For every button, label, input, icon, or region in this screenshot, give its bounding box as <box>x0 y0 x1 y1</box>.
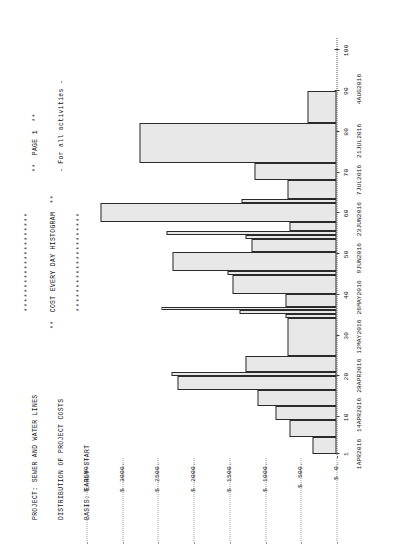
value-tick: $1500. <box>225 462 232 492</box>
histogram-bar <box>161 307 336 310</box>
time-tick-label: 60 <box>342 209 349 217</box>
project-line: PROJECT: SEWER AND WATER LINES <box>31 394 40 520</box>
currency-symbol: $ <box>118 488 125 492</box>
value-tick-label: 3500. <box>82 462 89 482</box>
histogram-bar <box>285 314 336 318</box>
histogram-bar <box>245 356 336 372</box>
value-tick-label: 1000. <box>261 462 268 482</box>
histogram-bar <box>241 199 336 203</box>
value-tick-label: 1500. <box>225 462 232 482</box>
report-page: PROJECT: SEWER AND WATER LINES DISTRIBUT… <box>0 0 397 544</box>
time-date-label: 4AUG2016 <box>355 74 362 104</box>
time-date-label: 14APR2016 <box>355 398 362 432</box>
value-tick: $2000. <box>190 462 197 492</box>
time-tick-label: 10 <box>342 413 349 421</box>
filter-note: - For all activities - <box>57 80 66 172</box>
title-star-rule-top: ********************* <box>23 195 32 329</box>
time-axis: 11020304050607080901001APR201614APR20162… <box>336 38 390 458</box>
time-tick-mark <box>334 49 339 50</box>
time-date-label: 26MAY2016 <box>355 280 362 314</box>
histogram-bar <box>232 275 336 294</box>
histogram-bar <box>100 203 336 222</box>
histogram-bar <box>289 420 336 438</box>
report-title: ** COST EVERY DAY HISTOGRAM ** <box>49 195 58 329</box>
value-tick: $500. <box>297 462 304 488</box>
bars-layer <box>68 38 336 458</box>
histogram-bar <box>251 239 336 252</box>
page-number: ** PAGE 1 ** <box>31 80 40 172</box>
histogram-bar <box>257 390 336 406</box>
time-date-label: 21JUL2016 <box>355 124 362 158</box>
time-date-label: 12MAY2016 <box>355 319 362 353</box>
time-tick-label: 90 <box>342 87 349 95</box>
histogram-bar <box>172 253 336 272</box>
value-tick-label: 2000. <box>190 462 197 482</box>
currency-symbol: $ <box>297 484 304 488</box>
time-date-label: 23JUN2016 <box>355 202 362 236</box>
value-tick-label: 500. <box>297 462 304 478</box>
currency-symbol: $ <box>190 488 197 492</box>
value-tick: $2500. <box>154 462 161 492</box>
distribution-line: DISTRIBUTION OF PROJECT COSTS <box>57 394 66 520</box>
value-tick: $0. <box>333 462 340 480</box>
histogram-bar <box>287 318 336 356</box>
value-tick-label: 2500. <box>154 462 161 482</box>
value-tick: $3500. <box>82 462 89 492</box>
time-date-label: 28APR2016 <box>355 359 362 393</box>
histogram-bar <box>177 376 336 390</box>
value-tick: $3000. <box>118 462 125 492</box>
histogram-bar <box>287 180 336 199</box>
histogram-bar <box>166 231 336 235</box>
value-tick: $1000. <box>261 462 268 492</box>
histogram-bar <box>171 372 336 376</box>
currency-symbol: $ <box>261 488 268 492</box>
currency-symbol: $ <box>154 488 161 492</box>
time-tick-label: 40 <box>342 291 349 299</box>
currency-symbol: $ <box>225 488 232 492</box>
currency-symbol: $ <box>82 488 89 492</box>
histogram-bar <box>285 294 336 307</box>
currency-symbol: $ <box>333 476 340 480</box>
time-tick-label: 80 <box>342 128 349 136</box>
histogram-bar <box>312 437 336 454</box>
time-date-label: 9JUN2016 <box>355 243 362 273</box>
time-tick-label: 20 <box>342 372 349 380</box>
time-tick-label: 50 <box>342 250 349 258</box>
value-tick-label: 0. <box>333 462 340 470</box>
histogram-bar <box>227 271 336 275</box>
histogram-bar <box>289 222 336 231</box>
value-axis: $0.$500.$1000.$1500.$2000.$2500.$3000.$3… <box>68 458 336 544</box>
histogram-bar <box>275 406 336 419</box>
value-tick-label: 3000. <box>118 462 125 482</box>
time-tick-label: 30 <box>342 332 349 340</box>
histogram-bar <box>139 123 336 163</box>
histogram-plot <box>68 38 336 458</box>
time-tick-label: 1 <box>342 452 349 456</box>
histogram-bar <box>254 163 336 181</box>
time-date-label: 1APR2016 <box>355 439 362 469</box>
time-tick-label: 100 <box>342 44 349 56</box>
time-date-label: 7JUL2016 <box>355 165 362 195</box>
histogram-bar <box>307 91 336 123</box>
histogram-bar <box>245 235 336 239</box>
report-sheet: PROJECT: SEWER AND WATER LINES DISTRIBUT… <box>0 0 397 544</box>
histogram-bar <box>239 310 336 314</box>
time-tick-label: 70 <box>342 169 349 177</box>
